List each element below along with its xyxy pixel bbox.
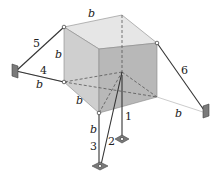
label-link-1: 1	[125, 110, 132, 123]
dim-b-link-3: b	[90, 123, 97, 136]
anchor-left	[12, 64, 18, 78]
dim-b-left-vertical: b	[55, 48, 62, 61]
link-6	[157, 43, 206, 113]
cube-links-diagram: 5 4 6 3 2 1 b b b b b b	[0, 0, 222, 180]
label-link-5: 5	[33, 37, 40, 50]
anchor-right	[203, 104, 209, 118]
label-link-3: 3	[90, 140, 97, 153]
dim-b-right: b	[175, 107, 182, 120]
dim-b-front-left: b	[76, 94, 83, 107]
label-link-4: 4	[40, 64, 47, 77]
dim-b-left-lower: b	[36, 78, 43, 91]
cube-front-face	[99, 43, 157, 113]
label-link-2: 2	[108, 135, 115, 148]
label-link-6: 6	[181, 64, 188, 77]
dim-b-top-back: b	[88, 7, 95, 20]
